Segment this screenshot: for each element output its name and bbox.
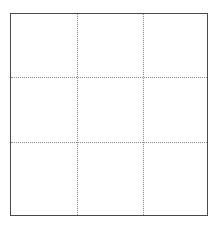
grid-cell-r3-c3 bbox=[143, 142, 207, 215]
grid-cell-r3-c1 bbox=[11, 142, 77, 215]
grid-cell-r1-c2 bbox=[77, 14, 143, 77]
grid-cell-r1-c1 bbox=[11, 14, 77, 77]
grid-cell-r2-c1 bbox=[11, 77, 77, 142]
grid-frame bbox=[10, 13, 208, 216]
grid-cell-r1-c3 bbox=[143, 14, 207, 77]
grid-cell-r2-c2 bbox=[77, 77, 143, 142]
grid-cell-r2-c3 bbox=[143, 77, 207, 142]
grid-cell-r3-c2 bbox=[77, 142, 143, 215]
